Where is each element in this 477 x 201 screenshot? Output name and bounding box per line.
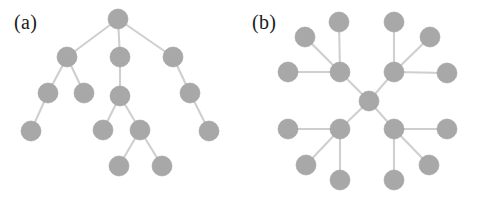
graph-node-leaf-ll-bottom [330,170,350,190]
node-layer [21,9,219,176]
graph-node-leaf-lr-diagonal [419,155,439,175]
graph-node-hub-upper-right [384,62,404,82]
graph-node-leaf-ll-diagonal [296,155,316,175]
graph-node-leaf-ll-left [278,119,298,139]
graph-node-leaf-lr-bottom [384,170,404,190]
graph-node-level2-a [38,83,58,103]
graph-node-level2-d [180,83,200,103]
graph-node-level2-b [74,83,94,103]
graph-node-hub-upper-left [330,62,350,82]
graph-node-leaf-ul-top [329,12,349,32]
graph-node-level3-a [21,121,41,141]
graph-node-level3-c [130,120,150,140]
graph-node-leaf-ul-diagonal [295,27,315,47]
graph-node-leaf-ur-diagonal [420,27,440,47]
graph-node-level1-right [163,47,183,67]
graph-node-hub-lower-right [384,119,404,139]
node-layer [278,12,457,190]
graph-node-level3-d [199,121,219,141]
graph-node-leaf-ur-top [384,12,404,32]
graph-node-root [108,9,128,29]
panel-b: (b) [238,0,477,201]
radial-graph-b [238,0,477,201]
graph-node-leaf-ur-right [437,63,457,83]
graph-node-level2-c [110,86,130,106]
panel-a: (a) [0,0,238,201]
graph-node-level1-center [110,47,130,67]
graph-node-level3-b [93,120,113,140]
graph-node-leaf-ul-left [278,62,298,82]
graph-node-center [359,91,379,111]
tree-graph-a [0,0,238,201]
figure-canvas: (a) (b) [0,0,477,201]
graph-node-hub-lower-left [330,119,350,139]
graph-node-level4-a [109,156,129,176]
graph-node-leaf-lr-right [437,119,457,139]
graph-node-level1-left [57,47,77,67]
graph-node-level4-b [152,156,172,176]
